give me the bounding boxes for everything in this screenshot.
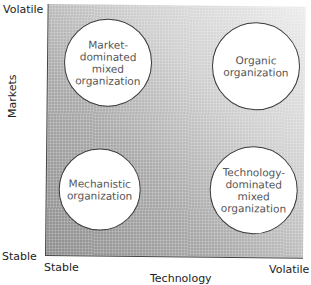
x-axis-low-label: Stable [44, 261, 79, 274]
x-axis-title: Technology [150, 272, 212, 285]
quadrant-organic: Organic organization [212, 22, 301, 111]
y-axis-low-label: Stable [2, 250, 37, 263]
quadrant-technology-dominated-mixed: Technology- dominated mixed organization [209, 146, 298, 235]
matrix-plot-area: Market- dominated mixed organization Org… [45, 4, 306, 259]
quadrant-market-dominated-mixed: Market- dominated mixed organization [64, 18, 153, 107]
x-axis-high-label: Volatile [269, 263, 309, 276]
y-axis-title: Markets [6, 74, 19, 118]
quadrant-mechanistic: Mechanistic organization [58, 148, 141, 231]
y-axis-high-label: Volatile [3, 3, 43, 16]
